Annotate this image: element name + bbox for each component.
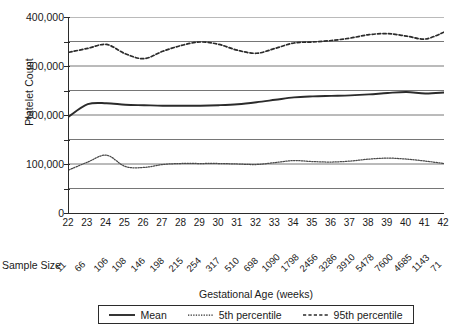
x-axis-title: Gestational Age (weeks) bbox=[68, 288, 444, 300]
y-axis-tick-label: 0 bbox=[4, 208, 64, 218]
legend-swatch bbox=[303, 311, 329, 319]
legend-item: 95th percentile bbox=[303, 309, 403, 321]
sample-size-values: 1166106108146198215254317510698109017982… bbox=[68, 238, 444, 282]
series-line bbox=[69, 32, 444, 58]
y-axis-tick bbox=[64, 115, 70, 116]
sample-size-value: 2456 bbox=[297, 251, 320, 274]
sample-size-value: 4685 bbox=[391, 251, 414, 274]
y-axis-tick-label: 300,000 bbox=[4, 61, 64, 71]
sample-size-value: 1798 bbox=[278, 251, 301, 274]
x-axis-tick-labels: 2223242526272829303132333435363738394041… bbox=[68, 217, 444, 231]
x-axis-tick-label: 42 bbox=[431, 217, 452, 228]
legend-label: 95th percentile bbox=[334, 309, 403, 321]
sample-size-value: 198 bbox=[147, 255, 166, 274]
sample-size-value: 66 bbox=[72, 259, 87, 274]
y-axis-tick bbox=[64, 213, 70, 214]
y-axis-tick-label: 400,000 bbox=[4, 12, 64, 22]
y-axis-tick bbox=[64, 189, 70, 190]
chart-svg bbox=[69, 17, 444, 213]
chart-legend: Mean5th percentile95th percentile bbox=[98, 305, 414, 324]
legend-item: 5th percentile bbox=[188, 309, 282, 321]
sample-size-value: 215 bbox=[166, 255, 185, 274]
sample-size-value: 71 bbox=[428, 259, 443, 274]
sample-size-value: 146 bbox=[128, 255, 147, 274]
y-axis-tick bbox=[64, 66, 70, 67]
sample-size-value: 5478 bbox=[353, 251, 376, 274]
sample-size-value: 1090 bbox=[259, 251, 282, 274]
sample-size-value: 3286 bbox=[316, 251, 339, 274]
y-axis-tick-labels: 400,000300,000200,000100,0000 bbox=[2, 0, 64, 331]
chart-container: Platelet Count 400,000300,000200,000100,… bbox=[0, 0, 452, 331]
legend-swatch bbox=[109, 311, 135, 319]
sample-size-value: 317 bbox=[203, 255, 222, 274]
series-line bbox=[69, 155, 444, 170]
y-axis-tick bbox=[64, 17, 70, 18]
y-axis-tick-label: 200,000 bbox=[4, 110, 64, 120]
sample-size-label: Sample Size bbox=[2, 259, 61, 271]
sample-size-value: 698 bbox=[241, 255, 260, 274]
legend-label: Mean bbox=[140, 309, 166, 321]
plot-area bbox=[68, 17, 444, 214]
sample-size-value: 7600 bbox=[372, 251, 395, 274]
y-axis-tick bbox=[64, 91, 70, 92]
y-axis-tick bbox=[64, 42, 70, 43]
y-axis-tick bbox=[64, 140, 70, 141]
y-axis-tick-label: 100,000 bbox=[4, 159, 64, 169]
sample-size-value: 1143 bbox=[409, 252, 431, 274]
sample-size-value: 3910 bbox=[334, 251, 357, 274]
legend-label: 5th percentile bbox=[219, 309, 282, 321]
y-axis-tick bbox=[64, 164, 70, 165]
sample-size-value: 254 bbox=[184, 255, 203, 274]
sample-size-value: 108 bbox=[109, 255, 128, 274]
sample-size-value: 106 bbox=[91, 255, 110, 274]
series-line bbox=[69, 92, 444, 117]
legend-item: Mean bbox=[109, 309, 166, 321]
sample-size-value: 510 bbox=[222, 255, 241, 274]
legend-swatch bbox=[188, 311, 214, 319]
